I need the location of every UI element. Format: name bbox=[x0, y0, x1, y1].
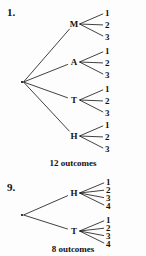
leaf-label-a-3: 3 bbox=[105, 71, 115, 80]
leaf-label-t-3: 3 bbox=[105, 109, 115, 118]
edge-h-to-3 bbox=[80, 136, 104, 148]
leaf-label-m-3: 3 bbox=[105, 33, 115, 42]
edge-root-to-h-3 bbox=[24, 82, 70, 131]
edge-root-to-m-0 bbox=[24, 29, 70, 82]
edge-t-to-2 bbox=[80, 100, 104, 101]
edge-t-to-1 bbox=[80, 90, 104, 100]
edge-m-to-2 bbox=[80, 24, 104, 25]
leaf-label-t-2: 2 bbox=[105, 97, 115, 106]
node-label-h: H bbox=[69, 132, 79, 141]
node-label-t: T bbox=[69, 96, 79, 105]
node-label-a: A bbox=[69, 58, 79, 67]
tree-root-node bbox=[21, 214, 23, 216]
node-label-t: T bbox=[69, 227, 79, 236]
edge-root-to-a-1 bbox=[24, 64, 68, 82]
leaf-label-a-2: 2 bbox=[105, 59, 115, 68]
edge-root-to-t-2 bbox=[24, 82, 68, 98]
problem-1-outcomes-label: 12 outcomes bbox=[0, 158, 146, 168]
leaf-label-h-1: 1 bbox=[105, 121, 115, 130]
edge-h-to-4 bbox=[80, 193, 105, 205]
edge-t-to-4 bbox=[80, 231, 105, 243]
leaf-label-a-1: 1 bbox=[105, 47, 115, 56]
edge-root-to-t-1 bbox=[24, 215, 68, 229]
edge-h-to-1 bbox=[80, 126, 104, 136]
leaf-label-h-2: 2 bbox=[105, 133, 115, 142]
edge-h-to-2 bbox=[80, 136, 104, 137]
edge-h-to-3 bbox=[80, 193, 105, 198]
leaf-label-h-3: 3 bbox=[105, 145, 115, 154]
edge-m-to-1 bbox=[80, 14, 104, 24]
edge-t-to-3 bbox=[80, 100, 104, 112]
node-label-h: H bbox=[69, 189, 79, 198]
leaf-label-t-1: 1 bbox=[105, 85, 115, 94]
leaf-label-m-2: 2 bbox=[105, 21, 115, 30]
edge-root-to-h-0 bbox=[24, 196, 69, 215]
edge-a-to-2 bbox=[80, 62, 104, 63]
edge-a-to-1 bbox=[80, 52, 104, 62]
edge-m-to-3 bbox=[80, 24, 104, 36]
node-label-m: M bbox=[69, 20, 79, 29]
problem-9-outcomes-label: 8 outcomes bbox=[0, 244, 146, 254]
edge-a-to-3 bbox=[80, 62, 104, 74]
problem-9: 9. H1234T1234 8 outcomes bbox=[0, 172, 146, 256]
edge-t-to-3 bbox=[80, 231, 105, 236]
leaf-label-m-1: 1 bbox=[105, 9, 115, 18]
worksheet-page: 1. M123A123T123H123 12 outcomes 9. H1234… bbox=[0, 0, 146, 256]
tree-root-node bbox=[21, 81, 23, 83]
problem-1: 1. M123A123T123H123 12 outcomes bbox=[0, 0, 146, 172]
leaf-label-h-4: 4 bbox=[106, 202, 116, 211]
